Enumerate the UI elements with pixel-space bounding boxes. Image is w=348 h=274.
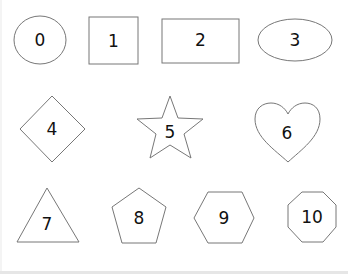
shape-diamond[interactable]: 4 [20, 96, 85, 162]
shape-circle[interactable]: 0 [14, 16, 66, 64]
shape-square[interactable]: 1 [89, 17, 138, 64]
shape-octagon[interactable]: 10 [288, 192, 336, 242]
pentagon-label: 8 [134, 208, 145, 228]
circle-label: 0 [35, 30, 46, 50]
star-label: 5 [165, 122, 176, 142]
shape-pentagon[interactable]: 8 [112, 188, 166, 243]
shape-star[interactable]: 5 [137, 96, 203, 158]
shapes-canvas: 0 1 2 3 4 5 6 7 8 9 10 [0, 0, 348, 274]
octagon-label: 10 [301, 207, 323, 227]
square-label: 1 [108, 31, 119, 51]
shape-triangle[interactable]: 7 [17, 188, 79, 242]
rectangle-label: 2 [195, 30, 206, 50]
shape-ellipse[interactable]: 3 [258, 19, 332, 61]
triangle-label: 7 [42, 214, 53, 234]
shape-rectangle[interactable]: 2 [162, 19, 239, 63]
shape-heart[interactable]: 6 [255, 103, 320, 162]
shape-hexagon[interactable]: 9 [194, 192, 254, 243]
heart-label: 6 [282, 123, 293, 143]
ellipse-label: 3 [290, 30, 301, 50]
diamond-label: 4 [47, 119, 58, 139]
hexagon-label: 9 [219, 208, 230, 228]
